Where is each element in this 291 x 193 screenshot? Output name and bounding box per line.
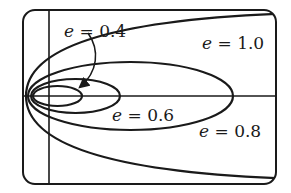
label-e-0-4: e = 0.4 (64, 21, 126, 41)
label-e-1-0: e = 1.0 (202, 33, 264, 53)
label-e-0-6: e = 0.6 (112, 105, 174, 125)
label-e-0-8: e = 0.8 (199, 121, 261, 141)
conic-diagram: e = 0.4 e = 1.0 e = 0.6 e = 0.8 (0, 0, 291, 193)
